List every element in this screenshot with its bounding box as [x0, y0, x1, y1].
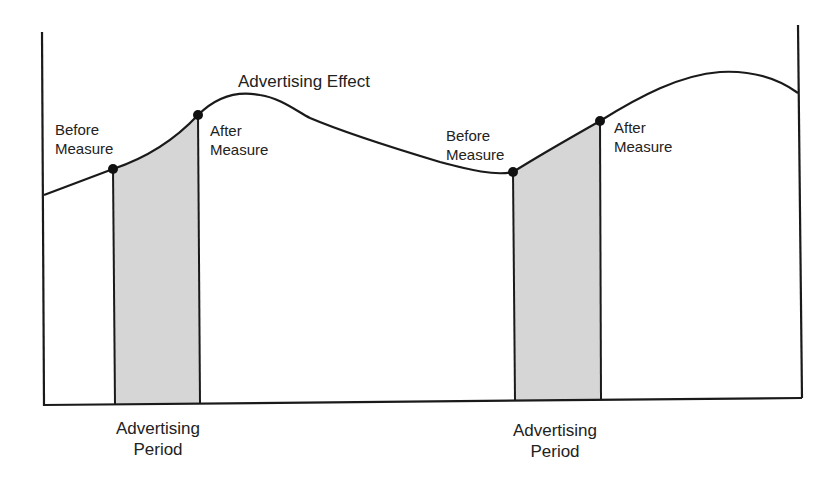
- chart-title: Advertising Effect: [238, 72, 370, 91]
- after-measure-dot-2: [595, 116, 605, 126]
- advertising-period-label-1-line1: Advertising: [108, 418, 208, 439]
- before-measure-label-1-line1: Before: [55, 120, 113, 139]
- after-measure-dot-1: [193, 110, 203, 120]
- period-2-end-line: [600, 121, 601, 399]
- before-measure-dot-1: [108, 164, 118, 174]
- before-measure-label-2-line2: Measure: [446, 145, 504, 164]
- before-measure-dot-2: [508, 167, 518, 177]
- before-measure-label-2-line1: Before: [446, 126, 504, 145]
- after-measure-label-2-line1: After: [614, 118, 672, 137]
- before-measure-label-2: Before Measure: [446, 126, 504, 164]
- advertising-period-label-2-line2: Period: [505, 441, 605, 462]
- advertising-period-label-1-line2: Period: [108, 439, 208, 460]
- after-measure-label-1-line2: Measure: [210, 140, 268, 159]
- after-measure-label-2-line2: Measure: [614, 137, 672, 156]
- after-measure-label-2: After Measure: [614, 118, 672, 156]
- advertising-period-label-1: Advertising Period: [108, 418, 208, 460]
- before-measure-label-1: Before Measure: [55, 120, 113, 158]
- advertising-period-1-shade: [113, 115, 200, 404]
- right-axis: [798, 25, 802, 398]
- before-measure-label-1-line2: Measure: [55, 139, 113, 158]
- advertising-period-label-2: Advertising Period: [505, 420, 605, 462]
- advertising-effect-diagram: [0, 0, 838, 484]
- after-measure-label-1: After Measure: [210, 121, 268, 159]
- advertising-period-label-2-line1: Advertising: [505, 420, 605, 441]
- after-measure-label-1-line1: After: [210, 121, 268, 140]
- left-axis: [42, 32, 44, 406]
